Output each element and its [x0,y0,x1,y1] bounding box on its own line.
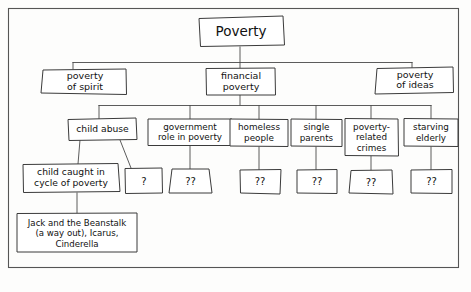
node-stories[interactable]: Jack and the Beanstalk (a way out), Icar… [17,213,137,252]
node-financial-poverty[interactable]: financial poverty [206,68,276,95]
node-government-role[interactable]: government role in poverty [148,119,233,146]
node-poverty-related-crimes-line1: poverty- [353,122,390,132]
node-unknown-poverty-related-crimes[interactable]: ?? [349,170,393,194]
node-government-role-line1: government [163,122,217,132]
connector-childabuse-to-q [120,140,131,168]
node-poverty-of-spirit-line2: of spirit [67,81,103,92]
node-stories-line2: (a way out), Icarus, [35,228,118,238]
node-government-role-line2: role in poverty [158,132,222,142]
node-unknown-starving-elderly[interactable]: ?? [411,170,452,194]
concept-map-diagram: Poverty poverty of spirit financial pove… [0,0,471,292]
node-poverty[interactable]: Poverty [199,16,285,47]
node-poverty-of-ideas-line2: of ideas [396,79,434,90]
node-child-cycle-line1: child caught in [37,166,105,177]
node-financial-poverty-line2: poverty [223,81,260,92]
node-single-parents[interactable]: single parents [291,119,342,147]
node-child-cycle-line2: cycle of poverty [34,177,108,188]
node-poverty-of-ideas[interactable]: poverty of ideas [375,67,454,94]
node-unknown-homeless-people-label: ?? [255,176,266,187]
node-unknown-child-abuse-label: ? [141,176,146,187]
node-unknown-single-parents-label: ?? [312,176,323,187]
node-unknown-government-role-label: ?? [185,176,196,187]
node-homeless-people-line2: people [244,133,274,143]
node-stories-line1: Jack and the Beanstalk [27,218,126,228]
node-child-cycle[interactable]: child caught in cycle of poverty [23,164,120,193]
node-poverty-related-crimes-line3: crimes [357,143,387,153]
node-child-abuse-label: child abuse [76,123,129,134]
concept-map-canvas: Poverty poverty of spirit financial pove… [0,0,471,292]
node-child-abuse[interactable]: child abuse [68,118,137,141]
node-single-parents-line1: single [303,122,329,132]
node-poverty-label: Poverty [215,23,266,39]
node-unknown-child-abuse[interactable]: ? [125,168,163,194]
node-poverty-related-crimes[interactable]: poverty- related crimes [345,119,399,157]
node-stories-line3: Cinderella [55,239,98,249]
node-single-parents-line2: parents [300,133,334,143]
node-unknown-poverty-related-crimes-label: ?? [366,177,377,188]
node-unknown-single-parents[interactable]: ?? [297,170,337,194]
node-starving-elderly-line1: starving [413,122,449,132]
node-poverty-of-ideas-line1: poverty [397,69,434,80]
node-homeless-people[interactable]: homeless people [230,119,288,147]
node-poverty-of-spirit[interactable]: poverty of spirit [41,69,127,95]
node-starving-elderly-line2: elderly [416,133,446,143]
node-homeless-people-line1: homeless [238,122,280,132]
node-unknown-starving-elderly-label: ?? [426,176,437,187]
node-poverty-related-crimes-line2: related [356,132,387,142]
connector-childabuse-to-cycle [78,140,80,164]
node-financial-poverty-line1: financial [221,70,261,81]
node-unknown-government-role[interactable]: ?? [169,169,212,193]
node-poverty-of-spirit-line1: poverty [67,70,104,81]
node-starving-elderly[interactable]: starving elderly [404,119,458,147]
node-unknown-homeless-people[interactable]: ?? [240,170,281,195]
